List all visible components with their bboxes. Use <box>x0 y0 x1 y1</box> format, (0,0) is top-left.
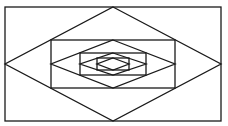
diamond-level-4 <box>97 58 129 70</box>
diamond-level-3 <box>80 53 146 75</box>
diamond-level-2 <box>51 40 175 88</box>
rectangle-level-4 <box>97 58 129 70</box>
diamond-level-1 <box>5 7 221 121</box>
rectangle-level-2 <box>51 40 175 88</box>
rectangle-level-1 <box>5 7 221 121</box>
nested-geometry-diagram <box>0 0 228 126</box>
rectangle-level-3 <box>80 53 146 75</box>
